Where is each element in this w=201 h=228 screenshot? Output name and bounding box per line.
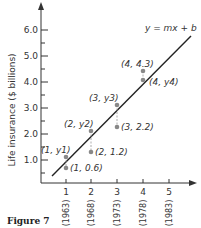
x-ticks — [66, 179, 169, 183]
x-tick-label: 4 — [140, 187, 146, 197]
y-axis-title: Life insurance ($ billions) — [7, 53, 17, 166]
y-tick-label: 4.0 — [24, 77, 39, 87]
x-tick-label: 3 — [114, 187, 120, 197]
x-tick-labels: 1 2 3 4 5 — [63, 187, 172, 197]
point-label: (4, 4.3) — [121, 59, 154, 69]
equation-label: y = mx + b — [144, 23, 197, 33]
y-tick-label: 5.0 — [24, 51, 39, 61]
x-year-label: (1973) — [113, 200, 122, 227]
x-year-label: (1983) — [165, 200, 174, 227]
point-label: (4, y4) — [149, 77, 179, 87]
x-tick-label: 5 — [166, 187, 172, 197]
point-label: (3, y3) — [89, 93, 119, 103]
x-tick-label: 1 — [63, 187, 69, 197]
x-year-label: (1968) — [87, 200, 96, 227]
x-year-labels: (1963) (1968) (1973) (1978) (1983) — [62, 200, 174, 227]
point-label: (1, 0.6) — [70, 163, 103, 173]
x-year-label: (1963) — [62, 200, 71, 227]
observed-point — [89, 150, 94, 155]
x-year-label: (1978) — [139, 200, 148, 227]
observed-point — [64, 166, 69, 171]
fitted-point — [115, 103, 120, 108]
y-tick-label: 2.0 — [24, 129, 39, 139]
observed-point — [141, 69, 146, 74]
y-tick-label: 1.0 — [24, 155, 39, 165]
y-axis-arrow-icon — [38, 2, 44, 10]
observed-point — [115, 125, 120, 130]
point-label: (2, y2) — [64, 119, 94, 129]
x-tick-label: 2 — [88, 187, 94, 197]
chart: 1.0 2.0 3.0 4.0 5.0 6.0 Life insurance (… — [0, 0, 201, 228]
fitted-point — [64, 155, 69, 160]
point-label: (1, y1) — [41, 145, 71, 155]
fitted-point — [89, 129, 94, 134]
point-label: (2, 1.2) — [95, 147, 128, 157]
fitted-point — [141, 78, 146, 83]
point-labels: (1, y1) (1, 0.6) (2, y2) (2, 1.2) (3, y3… — [41, 59, 179, 173]
y-tick-labels: 1.0 2.0 3.0 4.0 5.0 6.0 — [24, 25, 39, 165]
point-label: (3, 2.2) — [121, 122, 154, 132]
figure-label: Figure 7 — [7, 216, 50, 226]
y-tick-label: 6.0 — [24, 25, 39, 35]
x-axis-arrow-icon — [189, 180, 197, 186]
y-tick-label: 3.0 — [24, 103, 39, 113]
